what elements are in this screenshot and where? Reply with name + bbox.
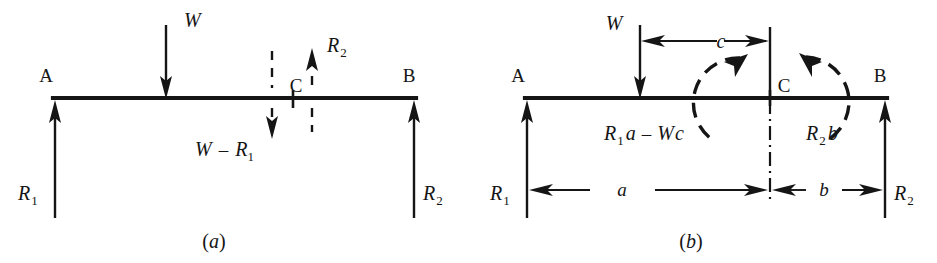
cut-line-right-a <box>306 48 318 132</box>
moment-left-c: c <box>675 122 684 144</box>
load-label-b: W <box>606 12 625 34</box>
section-label-b: C <box>778 75 791 96</box>
moment-right-r-sub: 2 <box>819 133 826 148</box>
dimension-a <box>529 184 768 196</box>
beam-free-body-figure: A B C W W–R1 R2 <box>0 0 937 263</box>
moment-label-left-b: R1a–Wc <box>603 122 684 148</box>
section-label-a: C <box>290 75 303 96</box>
caption-b-close: ) <box>696 230 703 253</box>
cut-reaction-r: R <box>326 34 339 56</box>
reaction-b-left-sub: 1 <box>503 193 510 208</box>
panel-a: A B C W W–R1 R2 <box>17 9 443 253</box>
reaction-label-a-right: R2 <box>422 182 443 208</box>
caption-a-letter: a <box>209 230 219 252</box>
shear-label-w: W <box>195 138 214 160</box>
reaction-label-b-left: R1 <box>489 182 510 208</box>
dimension-label-a: a <box>617 179 627 200</box>
caption-b: (b) <box>679 230 702 253</box>
caption-a: (a) <box>202 230 225 253</box>
shear-label-r: R <box>234 138 247 160</box>
reaction-arrow-a-left <box>49 100 61 218</box>
support-label-a-left: A <box>39 65 53 86</box>
reaction-a-right-r: R <box>422 182 435 204</box>
caption-b-letter: b <box>686 230 696 252</box>
load-arrow-b <box>634 25 646 99</box>
moment-left-r: R <box>603 122 616 144</box>
support-label-a-right: B <box>403 65 416 86</box>
figure-canvas: A B C W W–R1 R2 <box>0 0 937 263</box>
reaction-b-left-r: R <box>489 182 502 204</box>
shear-label-r-sub: 1 <box>247 149 254 164</box>
reaction-a-left-sub: 1 <box>31 193 38 208</box>
reaction-label-b-right: R2 <box>893 182 914 208</box>
shear-label-minus: – <box>218 139 229 160</box>
cut-line-left-a <box>266 51 278 139</box>
moment-left-a: a <box>626 122 636 144</box>
moment-left-minus: – <box>641 123 652 144</box>
load-label-a: W <box>184 9 203 31</box>
support-label-b-right: B <box>874 65 887 86</box>
reaction-a-right-sub: 2 <box>436 193 443 208</box>
reaction-arrow-b-left <box>521 100 533 218</box>
caption-a-close: ) <box>219 230 226 253</box>
dimension-label-b: b <box>819 179 829 200</box>
dimension-c <box>641 35 769 47</box>
cut-reaction-r-sub: 2 <box>340 45 347 60</box>
reaction-arrow-b-right <box>879 100 891 218</box>
moment-label-right-b: R2b <box>805 122 838 148</box>
moment-left-r-sub: 1 <box>617 133 624 148</box>
support-label-b-left: A <box>511 65 525 86</box>
shear-label-a: W–R1 <box>195 138 254 164</box>
moment-right-r: R <box>805 122 818 144</box>
load-arrow-a <box>160 25 172 99</box>
reaction-label-a-left: R1 <box>17 182 38 208</box>
panel-b: A B C W c R1a–Wc <box>489 12 914 253</box>
reaction-b-right-sub: 2 <box>907 193 914 208</box>
reaction-b-right-r: R <box>893 182 906 204</box>
reaction-arrow-a-right <box>408 100 420 218</box>
moment-right-b: b <box>828 122 838 144</box>
moment-left-w: W <box>657 122 676 144</box>
cut-reaction-label-a: R2 <box>326 34 347 60</box>
dimension-label-c: c <box>717 30 726 52</box>
reaction-a-left-r: R <box>17 182 30 204</box>
